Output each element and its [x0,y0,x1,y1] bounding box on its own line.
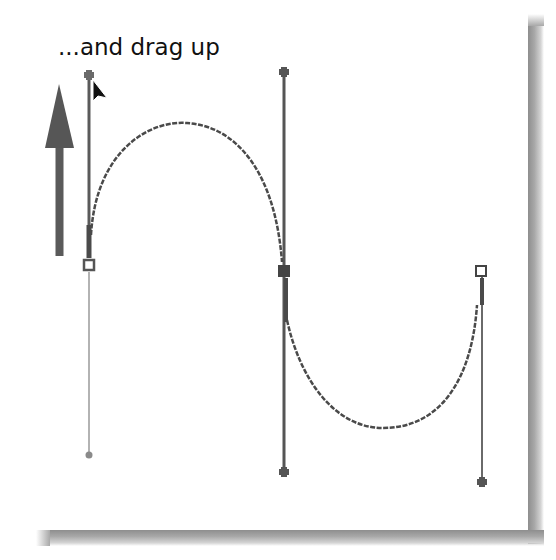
curve-segment-valley[interactable] [287,305,477,428]
curve-segment-arch[interactable] [91,123,282,262]
cursor-arrow-icon [93,80,107,101]
middle-upper-handle-point[interactable] [279,67,289,77]
bezier-diagram [0,0,528,530]
illustration-stage: ...and drag up [0,0,556,560]
right-anchor-point[interactable] [476,266,486,276]
panel-shadow-bottom [50,530,544,546]
middle-anchor-point[interactable] [278,265,290,277]
middle-lower-handle-point[interactable] [279,467,289,477]
right-lower-handle-point[interactable] [477,477,487,487]
up-arrow-icon [45,84,74,256]
left-anchor-point[interactable] [84,260,94,270]
left-upper-handle-point[interactable] [84,70,94,80]
right-anchor-handles [477,277,487,487]
canvas-panel: ...and drag up [0,0,528,530]
panel-shadow-right [528,26,544,544]
left-lower-handle-point[interactable] [86,452,93,459]
